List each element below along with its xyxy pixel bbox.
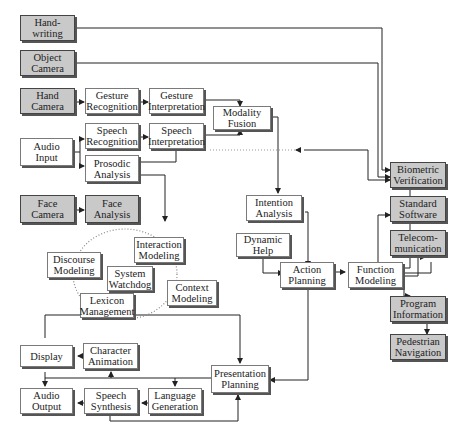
architecture-diagram: Hand- writing Object Camera Hand Camera … — [0, 0, 460, 432]
object-camera-box: Object Camera — [20, 50, 75, 76]
function-modeling-box: Function Modeling — [348, 262, 403, 288]
action-planning-box: Action Planning — [280, 262, 334, 288]
system-watchdog-box: System Watchdog — [107, 266, 153, 291]
speech-recognition-box: Speech Recognition — [85, 123, 139, 149]
speech-interpretation-box: Speech Interpretation — [149, 123, 204, 149]
gesture-recognition-box: Gesture Recognition — [85, 88, 139, 114]
intention-analysis-box: Intention Analysis — [246, 195, 302, 221]
audio-input-box: Audio Input — [20, 138, 73, 166]
face-analysis-box: Face Analysis — [85, 195, 139, 223]
gesture-interpretation-box: Gesture Interpretation — [149, 88, 204, 114]
context-modeling-box: Context Modeling — [167, 280, 217, 306]
biometric-verification-box: Biometric Verification — [390, 162, 446, 188]
hand-camera-box: Hand Camera — [20, 88, 75, 114]
lexicon-management-box: Lexicon Management — [80, 293, 134, 318]
handwriting-box: Hand- writing — [20, 15, 75, 41]
presentation-planning-box: Presentation Planning — [211, 365, 269, 393]
telecommunication-box: Telecom- munication — [390, 230, 446, 256]
face-camera-box: Face Camera — [20, 195, 75, 223]
prosodic-analysis-box: Prosodic Analysis — [85, 155, 139, 182]
character-animation-box: Character Animation — [83, 343, 138, 369]
standard-software-box: Standard Software — [390, 196, 446, 222]
pedestrian-navigation-box: Pedestrian Navigation — [390, 334, 446, 360]
audio-output-box: Audio Output — [20, 388, 73, 414]
display-box: Display — [20, 345, 73, 367]
dynamic-help-box: Dynamic Help — [236, 233, 290, 257]
speech-synthesis-box: Speech Synthesis — [84, 388, 138, 414]
program-information-box: Program Information — [390, 296, 446, 322]
interaction-modeling-box: Interaction Modeling — [134, 237, 184, 263]
language-generation-box: Language Generation — [148, 388, 202, 414]
modality-fusion-box: Modality Fusion — [213, 106, 271, 130]
discourse-modeling-box: Discourse Modeling — [47, 252, 101, 278]
